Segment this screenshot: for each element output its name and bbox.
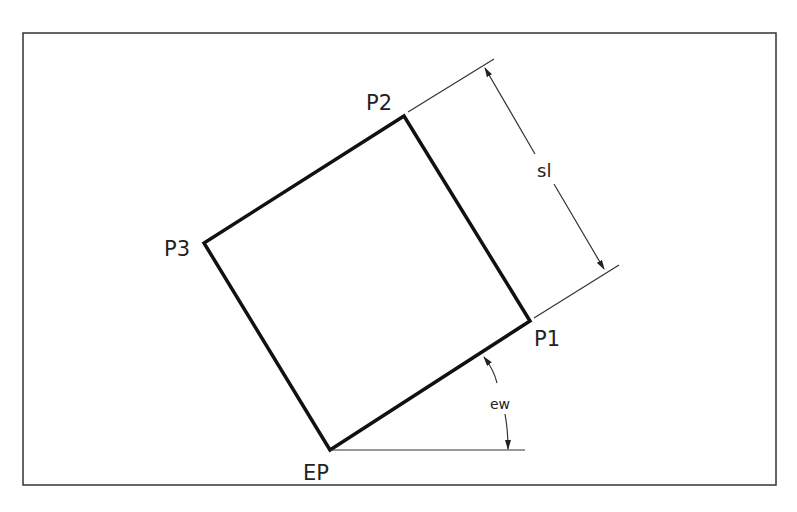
label-side-length: sl	[537, 160, 551, 181]
extension-line-p2	[408, 59, 494, 112]
label-p1: P1	[534, 327, 560, 351]
angle-arc-ew-upper	[484, 357, 497, 383]
dimension-line-sl-upper	[485, 68, 535, 154]
drawing-frame	[23, 33, 776, 485]
extension-line-p1	[534, 265, 619, 318]
dimension-line-sl-lower	[554, 184, 604, 269]
rotated-square	[204, 116, 530, 450]
diagram-canvas: P2 P3 P1 EP sl ew	[0, 0, 797, 512]
label-p2: P2	[366, 91, 392, 115]
angle-arc-ew-lower	[505, 414, 508, 449]
label-ep: EP	[303, 461, 329, 485]
label-angle: ew	[490, 396, 510, 412]
label-p3: P3	[164, 237, 190, 261]
